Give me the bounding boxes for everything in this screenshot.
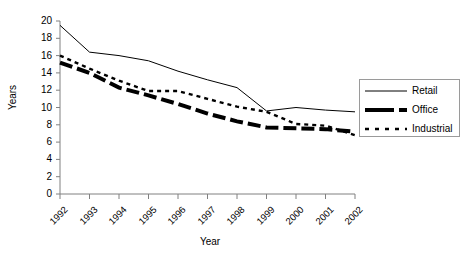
line-chart: 02468101214161820 1992199319941995199619…: [0, 0, 467, 258]
y-axis-tick-label: 14: [26, 68, 52, 78]
y-axis-title: Years: [7, 68, 18, 128]
legend-item-office[interactable]: Office: [360, 100, 461, 119]
legend-item-retail[interactable]: Retail: [360, 81, 461, 100]
y-axis-tick-label: 6: [26, 137, 52, 147]
legend: Retail Office Industrial: [359, 79, 460, 137]
legend-label-industrial: Industrial: [412, 123, 453, 134]
thin-solid-line-swatch: [364, 84, 408, 98]
x-axis-title: Year: [150, 236, 270, 247]
legend-item-industrial[interactable]: Industrial: [360, 119, 461, 138]
series-line-office: [60, 63, 355, 132]
y-axis-tick-label: 10: [26, 103, 52, 113]
thick-dashed-line-swatch: [364, 103, 408, 117]
legend-label-office: Office: [412, 104, 438, 115]
dotted-line-swatch: [364, 122, 408, 136]
y-axis-tick-label: 12: [26, 85, 52, 95]
y-axis-tick-label: 16: [26, 51, 52, 61]
y-tick-marks: [56, 21, 60, 194]
y-axis-tick-label: 0: [26, 189, 52, 199]
y-axis-tick-label: 18: [26, 33, 52, 43]
y-axis-tick-label: 4: [26, 154, 52, 164]
y-axis-tick-label: 2: [26, 172, 52, 182]
series-line-industrial: [60, 56, 355, 136]
x-tick-marks: [60, 194, 355, 199]
y-axis-tick-label: 8: [26, 120, 52, 130]
axis-lines: [60, 21, 355, 194]
legend-label-retail: Retail: [412, 85, 438, 96]
y-axis-tick-label: 20: [26, 16, 52, 26]
